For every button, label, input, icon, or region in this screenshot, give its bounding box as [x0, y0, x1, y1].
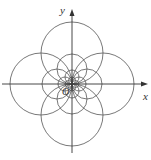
x-axis-arrow-icon [141, 82, 148, 87]
origin-label: O [62, 86, 69, 97]
y-axis-label: y [59, 4, 65, 16]
x-axis-label: x [142, 90, 148, 102]
diagram-figure: y x O [0, 0, 151, 160]
y-axis-arrow-icon [70, 9, 75, 16]
circles-diagram: y x O [0, 0, 151, 160]
